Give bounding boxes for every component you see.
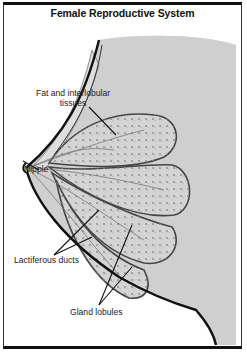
- label-nipple: Nipple: [24, 164, 48, 174]
- label-fat-line2: tissues: [36, 98, 110, 108]
- breast-anatomy-illustration: [4, 5, 242, 349]
- diagram-frame: Female Reproductive System: [3, 2, 242, 349]
- label-fat-tissues: Fat and interlobular tissues: [36, 88, 110, 108]
- label-fat-line1: Fat and interlobular: [36, 88, 110, 98]
- label-gland-lobules: Gland lobules: [70, 307, 123, 317]
- label-lactiferous-ducts: Lactiferous ducts: [14, 255, 79, 265]
